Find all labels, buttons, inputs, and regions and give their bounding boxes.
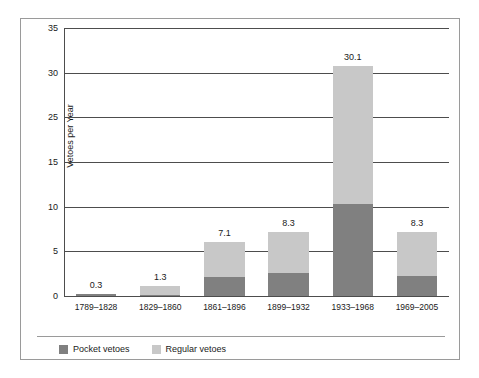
y-axis-tick-label: 15: [48, 157, 58, 167]
legend-swatch-icon: [152, 345, 161, 354]
x-axis-category-label: 1861–1896: [192, 302, 256, 312]
stacked-bar[interactable]: [140, 286, 180, 296]
legend-item[interactable]: Pocket vetoes: [59, 344, 130, 354]
x-axis-category-label: 1899–1932: [257, 302, 321, 312]
bar-segment-regular-vetoes[interactable]: [333, 66, 373, 205]
bar-segment-pocket-vetoes[interactable]: [397, 276, 437, 296]
bar-value-label: 1.3: [140, 272, 180, 282]
x-axis-category-label: 1933–1968: [321, 302, 385, 312]
y-axis-tick-label: 30: [48, 68, 58, 78]
legend-item[interactable]: Regular vetoes: [152, 344, 227, 354]
chart-figure: Vetoes per Year 353025151050 0.31.37.18.…: [20, 18, 460, 360]
bar-segment-pocket-vetoes[interactable]: [333, 204, 373, 296]
bar-segment-regular-vetoes[interactable]: [204, 242, 244, 277]
bar-segment-pocket-vetoes[interactable]: [268, 273, 308, 296]
legend-swatch-icon: [59, 345, 68, 354]
y-axis-tick-label: 10: [48, 202, 58, 212]
stacked-bar[interactable]: [76, 294, 116, 296]
stacked-bar[interactable]: [397, 232, 437, 296]
bar-series-container: 0.31.37.18.330.18.3: [64, 28, 449, 296]
x-axis-category-label: 1829–1860: [128, 302, 192, 312]
y-axis-tick-label: 25: [48, 112, 58, 122]
plot-area: 353025151050 0.31.37.18.330.18.3: [64, 28, 449, 296]
y-axis-tick-label: 5: [53, 246, 58, 256]
x-axis-category-label: 1789–1828: [64, 302, 128, 312]
x-axis-category-label: 1969–2005: [385, 302, 449, 312]
bar-segment-pocket-vetoes[interactable]: [204, 277, 244, 296]
legend-item-label: Regular vetoes: [166, 344, 227, 354]
bar-segment-pocket-vetoes[interactable]: [140, 295, 180, 296]
gridline: [64, 296, 449, 297]
y-axis-tick-label: 35: [48, 23, 58, 33]
bar-segment-pocket-vetoes[interactable]: [76, 294, 116, 296]
y-axis-tick-label: 0: [53, 291, 58, 301]
stacked-bar[interactable]: [204, 242, 244, 296]
bar-value-label: 8.3: [397, 218, 437, 228]
bar-value-label: 7.1: [204, 228, 244, 238]
bar-value-label: 30.1: [333, 52, 373, 62]
stacked-bar[interactable]: [333, 66, 373, 296]
chart-legend: Pocket vetoesRegular vetoes: [59, 344, 226, 354]
bar-value-label: 8.3: [268, 218, 308, 228]
bar-group[interactable]: 0.3: [76, 28, 116, 296]
bar-group[interactable]: 8.3: [268, 28, 308, 296]
bar-segment-regular-vetoes[interactable]: [268, 232, 308, 273]
bar-group[interactable]: 8.3: [397, 28, 437, 296]
legend-item-label: Pocket vetoes: [73, 344, 130, 354]
stacked-bar[interactable]: [268, 232, 308, 296]
bar-value-label: 0.3: [76, 280, 116, 290]
bar-group[interactable]: 1.3: [140, 28, 180, 296]
bar-segment-regular-vetoes[interactable]: [140, 286, 180, 295]
bar-segment-regular-vetoes[interactable]: [397, 232, 437, 276]
bar-group[interactable]: 7.1: [204, 28, 244, 296]
legend-divider: [37, 336, 445, 337]
bar-group[interactable]: 30.1: [333, 28, 373, 296]
